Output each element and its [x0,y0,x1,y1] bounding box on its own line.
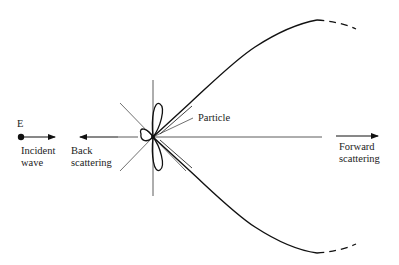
forward-lobe-lower [153,137,317,253]
incident-wave-arrow [18,134,55,140]
forward-scattering-label-2: scattering [339,153,380,165]
incident-label-2: wave [21,157,43,169]
forward-lobe-lower-inner [160,140,192,168]
back-scattering-label-2: scattering [71,157,112,169]
incident-label-1: Incident [21,145,55,157]
back-scattering-label-1: Back [71,145,93,157]
back-lobe [140,129,153,141]
forward-lobe-upper-dashed [317,20,356,29]
forward-lobe-upper-inner [160,106,192,134]
electric-field-label: E [17,118,23,130]
particle-dot [151,135,155,139]
forward-scattering-label-1: Forward [339,141,375,153]
particle-label: Particle [198,112,230,124]
forward-lobe-lower-dashed [317,244,356,253]
scattering-diagram [0,0,399,265]
upper-side-lobe [152,103,162,137]
forward-lobe-upper [153,20,317,137]
diagonal-axis-2 [120,137,153,171]
